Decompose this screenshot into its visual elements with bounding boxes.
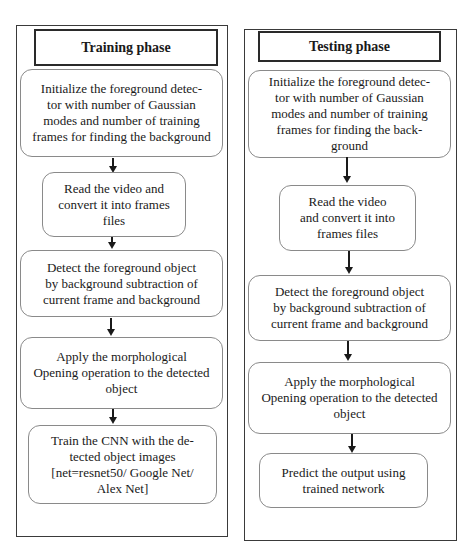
step-text: Detect the foreground object by backgrou… [271, 284, 428, 332]
step-text: Read the video and convert it into frame… [300, 194, 395, 242]
training-step-initialize-detector: Initialize the foreground detec- tor wit… [20, 69, 223, 157]
training-step-morphological-opening: Apply the morphological Opening operatio… [20, 337, 223, 409]
step-text: Initialize the foreground detec- tor wit… [269, 74, 430, 154]
testing-step-detect-foreground: Detect the foreground object by backgrou… [248, 275, 451, 341]
training-title-text: Training phase [81, 40, 171, 56]
testing-step-morphological-opening: Apply the morphological Opening operatio… [248, 362, 451, 434]
step-text: Apply the morphological Opening operatio… [261, 374, 437, 422]
training-phase-title: Training phase [34, 29, 218, 66]
testing-step-predict-output: Predict the output using trained network [259, 453, 428, 508]
testing-step-read-video: Read the video and convert it into frame… [279, 185, 416, 251]
step-text: Train the CNN with the de- tected object… [51, 433, 194, 497]
testing-step-initialize-detector: Initialize the foreground detec- tor wit… [248, 70, 451, 158]
training-step-detect-foreground: Detect the foreground object by backgrou… [20, 250, 223, 317]
testing-title-text: Testing phase [309, 39, 390, 55]
step-text: Predict the output using trained network [282, 465, 406, 497]
step-text: Read the video and convert it into frame… [58, 181, 170, 229]
step-text: Detect the foreground object by backgrou… [43, 260, 200, 308]
testing-phase-title: Testing phase [258, 31, 441, 62]
step-text: Apply the morphological Opening operatio… [33, 349, 209, 397]
training-step-train-cnn: Train the CNN with the de- tected object… [28, 425, 217, 504]
training-step-read-video: Read the video and convert it into frame… [42, 172, 186, 237]
step-text: Initialize the foreground detec- tor wit… [32, 81, 210, 145]
